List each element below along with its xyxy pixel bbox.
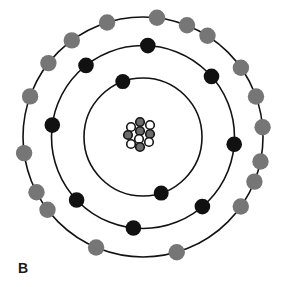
electron-shell-3-outer [248, 88, 264, 104]
electron-shell-3-outer [16, 145, 32, 161]
electron-shell-3-outer [233, 198, 249, 214]
nucleus-particle-white [146, 121, 155, 130]
electron-shell-3-outer [22, 88, 38, 104]
electron-shell-1-inner [154, 186, 169, 201]
electron-shell-2-middle [140, 38, 156, 54]
electron-shell-2-middle [126, 220, 142, 236]
electron-shell-3-outer [64, 32, 80, 48]
nucleus-particle-gray [136, 143, 145, 152]
nucleus-particle-white [145, 138, 154, 147]
electron-shell-2-middle [69, 192, 85, 208]
figure-panel: B [0, 0, 282, 287]
electron-shell-3-outer [169, 244, 185, 260]
electron-shell-3-outer [40, 55, 56, 71]
electron-shell-3-outer [88, 239, 104, 255]
electron-shell-2-middle [226, 136, 242, 152]
electron-shell-1-inner [115, 74, 130, 89]
electron-shell-3-outer [233, 59, 249, 75]
electron-shell-3-outer [179, 17, 195, 33]
electron-shell-2-middle [204, 69, 220, 85]
electron-shell-3-outer [252, 153, 268, 169]
nucleus-particle-gray [136, 118, 145, 127]
figure-label: B [18, 261, 29, 275]
electron-shell-3-outer [199, 28, 215, 44]
electron-shell-3-outer [246, 173, 262, 189]
electron-shell-3-outer [254, 119, 270, 135]
electron-shell-3-outer [39, 202, 55, 218]
electron-shell-2-middle [195, 199, 211, 215]
nucleus-particle-gray [124, 131, 133, 140]
electron-shell-3-outer [149, 10, 165, 26]
electron-shell-2-middle [78, 58, 94, 74]
electron-shell-3-outer [28, 184, 44, 200]
nucleus-particle-white [127, 140, 136, 149]
electron-shell-3-outer [99, 14, 115, 30]
bohr-model-diagram [0, 0, 282, 287]
electron-shell-2-middle [45, 117, 61, 133]
